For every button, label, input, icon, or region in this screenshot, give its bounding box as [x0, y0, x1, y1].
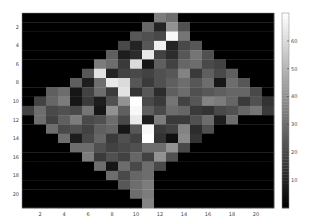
heatmap-cell: [214, 50, 226, 60]
colorbar-tick-label: 20: [291, 149, 297, 155]
colorbar-segment: [282, 80, 289, 83]
heatmap-cell: [94, 189, 106, 199]
heatmap-cell: [82, 32, 94, 42]
heatmap-cell: [202, 59, 214, 69]
heatmap-cell: [70, 22, 82, 32]
heatmap-cell: [190, 97, 202, 107]
heatmap-cell: [34, 78, 46, 88]
heatmap-cell: [250, 32, 262, 42]
heatmap-cell: [94, 115, 106, 125]
heatmap-cell: [154, 78, 166, 88]
heatmap-cell: [166, 115, 178, 125]
heatmap-cell: [202, 32, 214, 42]
heatmap-cell: [178, 115, 190, 125]
heatmap-cell: [142, 59, 154, 69]
heatmap-cell: [178, 22, 190, 32]
heatmap-cell: [70, 162, 82, 172]
heatmap-cell: [82, 199, 94, 209]
heatmap-cell: [214, 115, 226, 125]
colorbar-segment: [282, 132, 289, 135]
heatmap-cell: [58, 59, 70, 69]
heatmap-cell: [118, 162, 130, 172]
heatmap-cell: [238, 171, 250, 181]
heatmap-cell: [46, 87, 58, 97]
heatmap-cell: [70, 78, 82, 88]
heatmap-chart: 2468101214161820 2468101214161820 102030…: [0, 0, 311, 220]
heatmap-cell: [142, 189, 154, 199]
heatmap-cell: [46, 162, 58, 172]
heatmap-cell: [178, 199, 190, 209]
heatmap-cell: [202, 50, 214, 60]
heatmap-cell: [58, 162, 70, 172]
heatmap-cell: [214, 134, 226, 144]
heatmap-cell: [262, 152, 274, 162]
heatmap-cell: [262, 124, 274, 134]
heatmap-cell: [106, 199, 118, 209]
x-tick-label: 6: [86, 211, 89, 217]
heatmap-cell: [250, 189, 262, 199]
heatmap-cell: [154, 124, 166, 134]
colorbar-segment: [282, 16, 289, 19]
heatmap-cell: [190, 143, 202, 153]
heatmap-cell: [58, 115, 70, 125]
colorbar-segment: [282, 19, 289, 22]
heatmap-cell: [82, 180, 94, 190]
heatmap-cell: [202, 69, 214, 79]
heatmap-cell: [130, 199, 142, 209]
heatmap-cell: [58, 97, 70, 107]
colorbar-segment: [282, 53, 289, 56]
heatmap-cell: [106, 32, 118, 42]
heatmap-cell: [226, 59, 238, 69]
colorbar-segment: [282, 62, 289, 65]
heatmap-cell: [238, 162, 250, 172]
heatmap-cell: [34, 106, 46, 116]
heatmap-cell: [250, 152, 262, 162]
heatmap-cell: [250, 69, 262, 79]
heatmap-cell: [82, 87, 94, 97]
heatmap-cell: [226, 115, 238, 125]
heatmap-cell: [166, 199, 178, 209]
heatmap-cell: [130, 180, 142, 190]
heatmap-cell: [178, 32, 190, 42]
heatmap-cell: [70, 171, 82, 181]
heatmap-cell: [262, 13, 274, 23]
colorbar-segment: [282, 199, 289, 202]
heatmap-cell: [58, 152, 70, 162]
x-tick-label: 16: [205, 211, 211, 217]
heatmap-cell: [130, 78, 142, 88]
heatmap-cell: [262, 106, 274, 116]
heatmap-cell: [154, 162, 166, 172]
colorbar-segment: [282, 56, 289, 59]
heatmap-cell: [94, 199, 106, 209]
heatmap-cell: [238, 59, 250, 69]
colorbar-segment: [282, 37, 289, 40]
x-axis: 2468101214161820: [38, 211, 259, 217]
heatmap-cell: [238, 124, 250, 134]
heatmap-cell: [118, 180, 130, 190]
heatmap-cell: [58, 69, 70, 79]
heatmap-cell: [142, 171, 154, 181]
heatmap-cell: [214, 32, 226, 42]
heatmap-cell: [94, 41, 106, 51]
colorbar-segment: [282, 107, 289, 110]
heatmap-cell: [94, 69, 106, 79]
heatmap-cell: [190, 162, 202, 172]
heatmap-cell: [34, 162, 46, 172]
heatmap-cell: [178, 124, 190, 134]
heatmap-cell: [82, 124, 94, 134]
heatmap-cell: [22, 78, 34, 88]
heatmap-cell: [262, 50, 274, 60]
heatmap-cell: [46, 22, 58, 32]
heatmap-cell: [130, 162, 142, 172]
colorbar-segment: [282, 144, 289, 147]
heatmap-cell: [262, 22, 274, 32]
heatmap-cell: [82, 69, 94, 79]
x-tick-label: 14: [181, 211, 187, 217]
heatmap-cell: [70, 124, 82, 134]
heatmap-cell: [142, 69, 154, 79]
heatmap-cell: [202, 115, 214, 125]
colorbar-segment: [282, 47, 289, 50]
heatmap-cell: [238, 115, 250, 125]
colorbar-segment: [282, 77, 289, 80]
heatmap-cell: [118, 143, 130, 153]
